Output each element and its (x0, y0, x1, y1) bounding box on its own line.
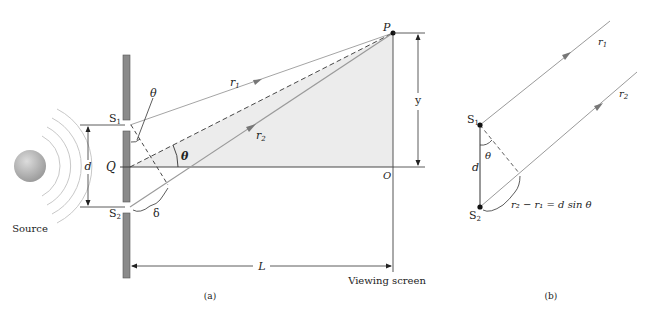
slit-barrier (123, 55, 130, 278)
y-label: y (414, 94, 422, 107)
source-sphere-icon (14, 150, 46, 182)
theta-top-label: θ (150, 87, 157, 100)
panel-b: r1 r2 d θ r₂ − r₁ = d sin θ S1 S2 (b) (467, 21, 637, 301)
perpendicular-dashed-b (480, 125, 519, 173)
o-label: O (383, 170, 391, 181)
theta-pointer (137, 98, 153, 140)
s1-b-label: S1 (467, 113, 479, 127)
p-label: P (382, 21, 391, 34)
s2-b-label: S2 (469, 209, 481, 223)
small-angle-arc (131, 139, 140, 142)
source-label: Source (12, 223, 48, 234)
d-b-label: d (472, 161, 479, 174)
theta-b-label: θ (485, 150, 491, 161)
ray-r1-arrow-icon (253, 79, 262, 85)
panel-a-caption: (a) (204, 291, 216, 301)
ray-r2-b-arrow-icon (594, 103, 603, 111)
q-label: Q (106, 160, 116, 174)
r2-b-label: r2 (619, 88, 629, 101)
theta-arc-b (480, 140, 492, 145)
delta-brace (133, 188, 168, 211)
ray-r1-b (480, 21, 610, 125)
panel-b-caption: (b) (545, 291, 558, 301)
viewing-screen-label: Viewing screen (347, 275, 426, 286)
theta-angle-label: θ (181, 150, 189, 163)
double-slit-diagram: Source d S1 S2 Q r1 r (0, 0, 648, 312)
s2-label: S2 (109, 207, 121, 221)
l-label: L (257, 260, 265, 273)
s2-b-dot (477, 204, 482, 209)
path-difference-label: r₂ − r₁ = d sin θ (511, 199, 592, 210)
delta-label: δ (153, 207, 160, 220)
d-label: d (84, 160, 91, 173)
r1-label: r1 (230, 76, 240, 90)
r1-b-label: r1 (598, 36, 607, 49)
ray-r2-b (480, 72, 637, 207)
s1-label: S1 (109, 112, 121, 126)
panel-a: Source d S1 S2 Q r1 r (12, 21, 426, 301)
